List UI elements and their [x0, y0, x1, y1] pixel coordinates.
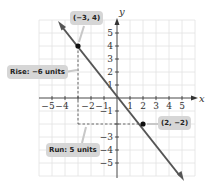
y-tick-label: 5: [107, 28, 113, 38]
y-tick-label: −1: [100, 106, 113, 116]
y-axis-label: y: [118, 6, 125, 17]
coordinate-plane: −5 −4 −2 −1 1 2 3 4 5 5 4 3 2 1 −1 −3 −4…: [0, 0, 210, 192]
x-axis-label: x: [199, 93, 205, 104]
y-tick-label: 2: [107, 67, 113, 77]
x-tick-label: 5: [179, 101, 185, 111]
y-tick-label: −3: [100, 132, 114, 142]
x-tick-label: 3: [153, 101, 159, 111]
y-tick-label: 3: [107, 54, 113, 64]
x-tick-label: −5: [41, 101, 55, 111]
x-tick-label: 2: [140, 101, 146, 111]
rise-label: Rise: −6 units: [7, 65, 68, 79]
y-tick-label: −5: [100, 158, 114, 168]
point-label-2-neg2: (2, −2): [158, 116, 191, 130]
x-tick-label: −4: [55, 101, 69, 111]
x-axis-arrow-icon: [191, 96, 198, 101]
y-tick-label: 4: [107, 41, 113, 51]
run-label: Run: 5 units: [46, 143, 100, 157]
y-axis-arrow-icon: [115, 18, 120, 25]
point-label-neg3-4: (−3, 4): [70, 11, 103, 25]
point-neg3-4: [75, 43, 80, 48]
x-tick-label: 4: [166, 101, 172, 111]
point-2-neg2: [140, 121, 145, 126]
y-tick-label: −4: [100, 145, 114, 155]
x-tick-label: −2: [81, 101, 94, 111]
